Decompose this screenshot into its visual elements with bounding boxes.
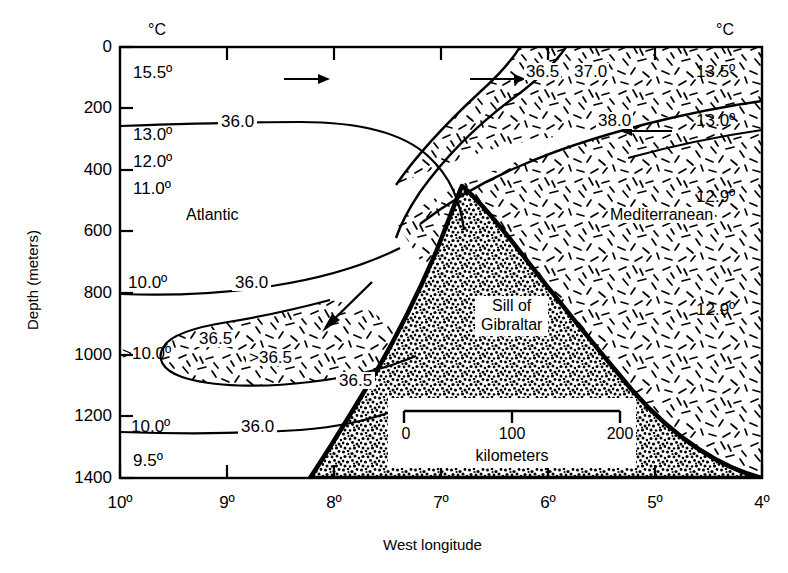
y-tick-600: 600 <box>46 222 112 239</box>
temperature-left-10-0-1200m: 10.0º <box>131 418 170 435</box>
salinity-label-36-5-tongue-upper: 36.5 <box>196 330 235 347</box>
salinity-label-36-0-lower: 36.0 <box>238 418 277 435</box>
temperature-right-12-9-lower: 12.9º <box>696 301 735 318</box>
salinity-label-36-5-strait: 36.5 <box>524 63 561 80</box>
y-tick-200: 200 <box>46 99 112 116</box>
temperature-right-12-9-upper: 12.9º <box>696 188 735 205</box>
temperature-left-11-0: 11.0º <box>133 180 171 197</box>
salinity-label-gt-36-5-core: >36.5 <box>246 349 295 366</box>
salinity-label-36-0-upper: 36.0 <box>218 113 257 130</box>
y-tick-0: 0 <box>62 38 112 55</box>
temperature-left-15-5: 15.5º <box>133 64 172 81</box>
temperature-left-gt-10-0: >10.0º <box>122 345 171 362</box>
temperature-left-10-0-800m: 10.0º <box>128 274 167 291</box>
y-tick-1200: 1200 <box>36 407 112 424</box>
salinity-label-36-0-mid: 36.0 <box>232 274 271 291</box>
y-tick-400: 400 <box>46 161 112 178</box>
scale-bar-unit: kilometers <box>440 447 584 465</box>
sill-label-line2: Gibraltar <box>481 316 542 335</box>
gibraltar-cross-section-figure: °C °C 0 200 400 600 800 1000 1200 1400 1… <box>0 0 788 573</box>
scale-tick-0: 0 <box>392 425 420 443</box>
region-label-mediterranean: Mediterranean <box>608 207 715 223</box>
y-axis-ticks <box>120 47 133 478</box>
cross-section-svg <box>0 0 788 573</box>
x-tick-9: 9º <box>205 494 249 511</box>
x-tick-6: 6º <box>526 494 570 511</box>
x-tick-7: 7º <box>419 494 463 511</box>
region-label-atlantic: Atlantic <box>186 207 238 223</box>
scale-tick-100: 100 <box>488 425 536 443</box>
x-tick-4: 4º <box>740 494 784 511</box>
salinity-label-36-5-tongue-east: 36.5 <box>336 372 375 389</box>
x-tick-8: 8º <box>312 494 356 511</box>
sill-label-line1: Sill of <box>481 297 542 316</box>
right-temperature-column-header: °C <box>716 22 734 38</box>
sill-of-gibraltar-label: Sill of Gibraltar <box>475 296 548 336</box>
scale-tick-200: 200 <box>596 425 644 443</box>
y-axis-title: Depth (meters) <box>24 230 41 330</box>
left-temperature-column-header: °C <box>148 22 166 38</box>
temperature-left-9-5: 9.5º <box>133 452 163 469</box>
y-tick-800: 800 <box>46 284 112 301</box>
temperature-right-13-0: 13.0º <box>696 112 735 129</box>
flow-arrow-atlantic-inflow-1 <box>284 74 330 84</box>
salinity-label-37-0: 37.0 <box>572 63 609 80</box>
x-tick-10: 10º <box>96 494 144 511</box>
x-tick-5: 5º <box>633 494 677 511</box>
y-tick-1000: 1000 <box>36 346 112 363</box>
salinity-label-38-0: 38.0 <box>596 112 633 129</box>
x-axis-title: West longitude <box>383 537 482 552</box>
temperature-left-12-0: 12.0º <box>133 153 172 170</box>
temperature-left-13-0: 13.0º <box>133 126 172 143</box>
temperature-right-13-5: 13.5º <box>696 63 735 80</box>
y-tick-1400: 1400 <box>36 469 112 486</box>
